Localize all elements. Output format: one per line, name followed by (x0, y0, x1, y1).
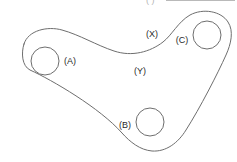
callout-label-y: (Y) (134, 66, 146, 76)
callout-label-c: (C) (176, 35, 189, 45)
hole-c-circle (193, 21, 221, 49)
hole-b-circle (136, 108, 164, 136)
technical-drawing-canvas: ( ) (A) (B) (C) (X) (Y) (0, 0, 237, 162)
callout-label-a: (A) (64, 56, 76, 66)
bracket-drawing-svg: (A) (B) (C) (X) (Y) (0, 0, 237, 162)
callout-label-b: (B) (119, 120, 131, 130)
hole-a-circle (31, 47, 59, 75)
callout-label-x: (X) (146, 29, 158, 39)
